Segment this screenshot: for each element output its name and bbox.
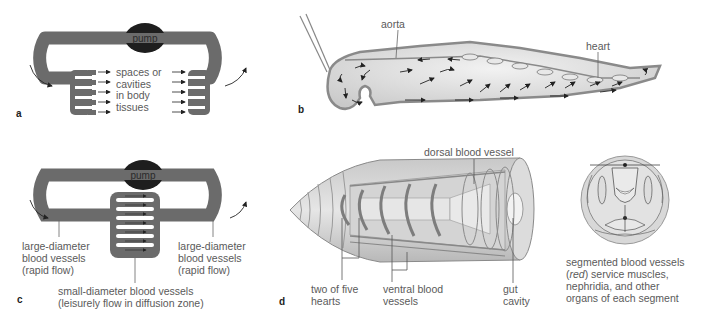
panel-letter-d: d: [279, 296, 285, 307]
panel-letter-c: c: [17, 294, 23, 305]
ventral-vessels-label: ventral blood vessels: [383, 283, 443, 307]
pump-label-c: pump: [130, 170, 155, 181]
spaces-cavities-label: spaces or cavities in body tissues: [116, 67, 162, 113]
panel-letter-a: a: [16, 108, 22, 119]
earthworm-cross-section: [581, 156, 669, 244]
panel-b-insect-open-system: [300, 14, 660, 109]
left-large-vessels-label: large-diameter blood vessels (rapid flow…: [22, 240, 90, 276]
dorsal-vessel-label: dorsal blood vessel: [424, 146, 514, 158]
pump-label-a: pump: [132, 33, 157, 44]
hearts-label: two of five hearts: [311, 283, 358, 307]
cross-section-caption: segmented blood vessels (red) service mu…: [566, 256, 685, 304]
caption-italic: red: [570, 268, 585, 280]
heart-label: heart: [586, 40, 610, 52]
panel-letter-b: b: [298, 104, 304, 115]
small-vessels-label: small-diameter blood vessels (leisurely …: [58, 285, 204, 309]
panel-d-earthworm: [290, 158, 534, 283]
aorta-label: aorta: [381, 18, 405, 30]
right-large-vessels-label: large-diameter blood vessels (rapid flow…: [178, 240, 246, 276]
gut-cavity-label: gut cavity: [503, 283, 530, 307]
